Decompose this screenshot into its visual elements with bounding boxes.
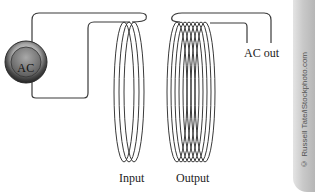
photo-credit: © Russell Tate/iStockphoto.com bbox=[296, 40, 312, 180]
input-coil-label: Input bbox=[119, 171, 144, 186]
input-wires bbox=[32, 13, 146, 98]
input-coil bbox=[114, 22, 144, 162]
ac-out-label: AC out bbox=[244, 46, 279, 61]
diagram-drawing bbox=[0, 0, 315, 192]
output-coil bbox=[167, 22, 215, 162]
output-coil-label: Output bbox=[176, 171, 209, 186]
page-edge: © Russell Tate/iStockphoto.com bbox=[293, 0, 315, 192]
transformer-diagram: AC Input Output AC out © Russell Tate/iS… bbox=[0, 0, 315, 192]
ac-source-label: AC bbox=[9, 61, 43, 76]
